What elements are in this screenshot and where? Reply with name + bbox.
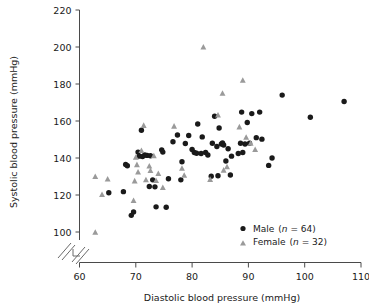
data-point-female	[143, 177, 149, 183]
data-point-male	[210, 141, 215, 146]
y-tick-label: 120	[53, 190, 71, 201]
data-point-female	[181, 172, 187, 178]
data-point-male	[242, 141, 247, 146]
data-point-female	[171, 123, 177, 129]
data-point-female	[252, 146, 258, 152]
data-point-male	[129, 213, 134, 218]
x-axis-ticks: 60708090100110	[73, 263, 369, 283]
data-point-male	[153, 204, 158, 209]
legend-female-label: Female(n = 32)	[253, 237, 327, 247]
data-point-female	[135, 169, 141, 175]
data-point-male	[308, 115, 313, 120]
data-point-male	[238, 141, 243, 146]
x-tick-label: 110	[352, 271, 369, 282]
series-female	[92, 44, 258, 235]
data-point-male	[266, 163, 271, 168]
data-point-female	[134, 162, 140, 168]
data-point-male	[170, 139, 175, 144]
data-point-male	[229, 153, 234, 158]
data-point-male	[223, 158, 228, 163]
data-point-male	[341, 99, 346, 104]
data-point-male	[257, 109, 262, 114]
data-point-male	[249, 111, 254, 116]
data-point-female	[146, 163, 152, 169]
data-point-female	[131, 197, 137, 203]
data-point-female	[224, 164, 230, 170]
data-point-male	[106, 190, 111, 195]
y-tick-label: 220	[53, 5, 71, 16]
x-tick-label: 60	[73, 271, 85, 282]
data-point-male	[183, 141, 188, 146]
data-point-male	[179, 159, 184, 164]
data-point-female	[200, 44, 206, 50]
data-point-male	[139, 128, 144, 133]
x-tick-label: 90	[242, 271, 254, 282]
data-point-male	[240, 150, 245, 155]
y-tick-label: 140	[53, 153, 71, 164]
data-point-male	[121, 189, 126, 194]
data-point-male	[160, 149, 165, 154]
data-point-female	[240, 77, 246, 83]
y-tick-label: 180	[53, 79, 71, 90]
data-point-male	[186, 133, 191, 138]
y-tick-label: 160	[53, 116, 71, 127]
data-point-male	[216, 125, 221, 130]
data-point-male	[215, 173, 220, 178]
plot-canvas: 100120140160180200220 60708090100110 Sys…	[0, 0, 369, 308]
data-point-male	[205, 152, 210, 157]
data-point-male	[269, 155, 274, 160]
x-tick-label: 80	[186, 271, 198, 282]
data-point-male	[221, 142, 226, 147]
data-point-male	[166, 176, 171, 181]
data-point-male	[178, 177, 183, 182]
data-point-female	[92, 173, 98, 179]
data-point-male	[175, 132, 180, 137]
scatter-plot-figure: 100120140160180200220 60708090100110 Sys…	[0, 0, 369, 308]
data-point-male	[198, 151, 203, 156]
data-point-male	[254, 135, 259, 140]
data-point-female	[92, 229, 98, 235]
data-point-female	[236, 124, 242, 130]
data-point-male	[259, 136, 264, 141]
legend-female-marker	[240, 240, 246, 245]
data-point-female	[160, 185, 166, 191]
data-point-female	[220, 90, 226, 96]
data-point-female	[141, 122, 147, 128]
data-point-female	[105, 176, 111, 182]
data-point-male	[214, 144, 219, 149]
y-axis-title: Systolic blood pressure (mmHg)	[8, 56, 19, 208]
data-point-female	[243, 134, 249, 140]
data-point-male	[147, 184, 152, 189]
data-point-male	[279, 92, 284, 97]
data-point-male	[239, 109, 244, 114]
legend-male-label: Male(n = 64)	[253, 224, 316, 234]
y-tick-label: 100	[53, 227, 71, 238]
data-point-male	[200, 134, 205, 139]
data-point-female	[132, 178, 138, 184]
axis-break-symbol	[58, 243, 89, 264]
y-axis-ticks: 100120140160180200220	[53, 5, 79, 238]
data-point-female	[99, 192, 105, 198]
data-point-male	[225, 146, 230, 151]
data-point-male	[164, 205, 169, 210]
data-point-male	[236, 151, 241, 156]
data-points	[92, 44, 346, 235]
legend: Male(n = 64) Female(n = 32)	[240, 224, 327, 247]
data-point-male	[125, 163, 130, 168]
y-tick-label: 200	[53, 42, 71, 53]
x-axis-title: Diastolic blood pressure (mmHg)	[144, 292, 300, 303]
legend-male-marker	[240, 226, 245, 231]
data-point-male	[228, 172, 233, 177]
x-tick-label: 70	[130, 271, 142, 282]
data-point-male	[245, 120, 250, 125]
series-male	[106, 92, 347, 218]
data-point-male	[152, 184, 157, 189]
x-tick-label: 100	[296, 271, 314, 282]
data-point-female	[155, 170, 161, 176]
data-point-male	[195, 121, 200, 126]
data-point-female	[179, 165, 185, 171]
